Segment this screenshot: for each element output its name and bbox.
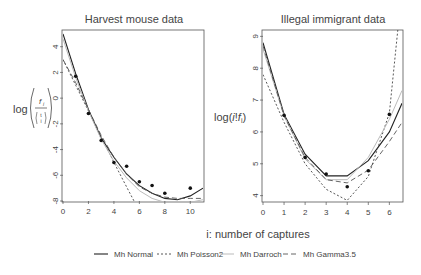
y-tick-label: 8 bbox=[251, 65, 260, 70]
data-point bbox=[138, 180, 142, 184]
y-tick-label: -2 bbox=[51, 120, 60, 128]
data-point bbox=[87, 112, 91, 116]
x-axis-label: i: number of captures bbox=[206, 228, 310, 240]
data-point bbox=[303, 156, 307, 160]
legend-label: Mh Poisson2 bbox=[177, 250, 224, 259]
series-line bbox=[263, 43, 402, 176]
x-tick-label: 8 bbox=[163, 207, 168, 216]
series-line bbox=[63, 60, 203, 199]
legend-label: Mh Gamma3.5 bbox=[303, 250, 356, 259]
y-tick-label: -8 bbox=[51, 197, 60, 205]
y-tick-label: 6 bbox=[251, 129, 260, 134]
series-line bbox=[63, 34, 203, 200]
data-point bbox=[99, 139, 103, 143]
data-point bbox=[388, 113, 392, 117]
data-point bbox=[324, 172, 328, 176]
x-tick-label: 5 bbox=[366, 208, 371, 217]
left-x-axis: 0246810 bbox=[61, 201, 195, 216]
x-tick-label: 2 bbox=[86, 207, 91, 216]
y-tick-label: -4 bbox=[51, 145, 60, 153]
data-point bbox=[112, 161, 116, 165]
left-ylabel-log: log bbox=[13, 103, 28, 115]
y-tick-label: -6 bbox=[51, 171, 60, 179]
data-point bbox=[367, 169, 371, 173]
x-tick-label: 1 bbox=[282, 208, 287, 217]
x-tick-label: 0 bbox=[61, 207, 66, 216]
y-tick-label: 4 bbox=[51, 44, 60, 49]
svg-text:f: f bbox=[39, 97, 42, 106]
right-ylabel: log(i!fi) bbox=[214, 111, 246, 124]
y-tick-label: 9 bbox=[251, 34, 260, 39]
left-series bbox=[63, 34, 203, 220]
y-tick-label: 2 bbox=[51, 70, 60, 75]
left-ylabel: log f i t i bbox=[13, 88, 52, 128]
x-tick-label: 2 bbox=[303, 208, 308, 217]
left-y-axis: 420-2-4-6-8 bbox=[51, 44, 63, 205]
series-line bbox=[63, 39, 203, 204]
left-points bbox=[74, 74, 192, 195]
right-title: Illegal immigrant data bbox=[281, 13, 386, 25]
right-points bbox=[282, 113, 391, 189]
x-tick-label: 6 bbox=[137, 207, 142, 216]
y-tick-label: 5 bbox=[251, 161, 260, 166]
y-tick-label: 0 bbox=[51, 95, 60, 100]
data-point bbox=[74, 74, 78, 78]
svg-text:i: i bbox=[43, 101, 45, 107]
data-point bbox=[282, 114, 286, 118]
x-tick-label: 4 bbox=[345, 208, 350, 217]
right-panel: Illegal immigrant data 987654 0123456 lo… bbox=[214, 13, 403, 217]
data-point bbox=[125, 164, 129, 168]
x-tick-label: 3 bbox=[324, 208, 329, 217]
data-point bbox=[163, 191, 167, 195]
left-plot-frame bbox=[62, 30, 204, 202]
y-tick-label: 4 bbox=[251, 193, 260, 198]
y-tick-label: 7 bbox=[251, 97, 260, 102]
x-tick-label: 0 bbox=[261, 208, 266, 217]
legend-label: Mh Darroch bbox=[240, 250, 282, 259]
left-panel: Harvest mouse data 420-2-4-6-8 0246810 l… bbox=[13, 13, 204, 220]
legend-label: Mh Normal bbox=[114, 250, 153, 259]
svg-text:i: i bbox=[40, 118, 41, 124]
right-x-axis: 0123456 bbox=[261, 202, 392, 217]
legend: Mh NormalMh Poisson2Mh DarrochMh Gamma3.… bbox=[94, 250, 356, 259]
data-point bbox=[150, 184, 154, 188]
x-tick-label: 4 bbox=[112, 207, 117, 216]
x-tick-label: 10 bbox=[186, 207, 195, 216]
figure: Harvest mouse data 420-2-4-6-8 0246810 l… bbox=[0, 0, 421, 275]
right-y-axis: 987654 bbox=[251, 34, 263, 198]
x-tick-label: 6 bbox=[387, 208, 392, 217]
data-point bbox=[188, 186, 192, 190]
left-title: Harvest mouse data bbox=[85, 13, 184, 25]
data-point bbox=[345, 185, 349, 189]
